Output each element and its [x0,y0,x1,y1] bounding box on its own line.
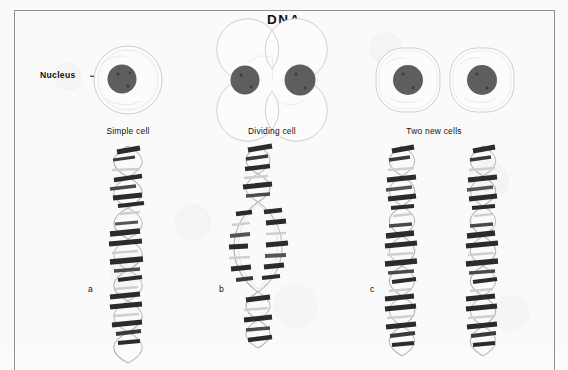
cell-caption-simple: Simple cell [68,126,188,136]
panel-letter-c: c [370,284,374,294]
panel-letter-a: a [88,284,93,294]
helix-a [109,146,144,363]
cell-caption-two-new: Two new cells [374,126,494,136]
nucleus [231,66,260,95]
nucleus [285,65,316,96]
simple-cell [94,46,162,114]
helix-c-left [385,146,417,356]
nucleus [393,65,423,95]
panel-letter-b: b [219,284,224,294]
two-new-cells [376,48,514,112]
nucleus [108,65,137,94]
dividing-cell [217,19,328,142]
cell-caption-dividing: Dividing cell [212,126,332,136]
helix-c-right [466,146,498,356]
nucleus [467,65,497,95]
helix-b [229,146,288,348]
